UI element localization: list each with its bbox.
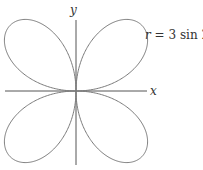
equation-rest: = 3 sin 2θ bbox=[151, 28, 203, 42]
x-axis-label: x bbox=[150, 84, 157, 98]
polar-rose-chart: x y r = 3 sin 2θ bbox=[0, 0, 203, 170]
equation-label: r = 3 sin 2θ bbox=[145, 28, 203, 42]
y-axis-label: y bbox=[69, 3, 77, 17]
